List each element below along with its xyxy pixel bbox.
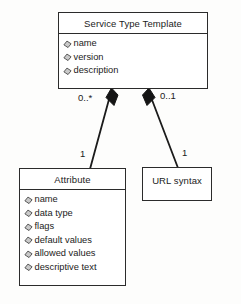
multiplicity-label-url-syntax-end: 1: [182, 148, 187, 158]
diamond-bullet-icon: [24, 250, 33, 259]
composition-line-template-attribute: [90, 92, 111, 169]
attribute-row: version: [59, 51, 207, 65]
diamond-bullet-icon: [24, 236, 33, 245]
attribute-row: descriptive text: [20, 261, 125, 275]
multiplicity-label-template-attribute-end: 0..*: [78, 93, 92, 103]
attribute-label: name: [74, 39, 97, 48]
attribute-row: default values: [20, 234, 125, 248]
attribute-label: data type: [35, 209, 73, 218]
class-title-url-syntax: URL syntax: [143, 168, 211, 191]
attribute-label: default values: [35, 236, 92, 245]
attribute-row: name: [59, 37, 207, 51]
diamond-bullet-icon: [24, 209, 33, 218]
attribute-row: allowed values: [20, 247, 125, 261]
class-attributes-attribute: name data type flags: [20, 190, 125, 277]
diamond-bullet-icon: [63, 53, 72, 62]
diamond-bullet-icon: [63, 67, 72, 76]
class-title-attribute: Attribute: [20, 169, 125, 190]
diamond-bullet-icon: [24, 263, 33, 272]
composition-line-template-url-syntax: [149, 92, 178, 168]
attribute-row: flags: [20, 220, 125, 234]
class-title-service-type-template: Service Type Template: [59, 13, 207, 34]
diamond-bullet-icon: [24, 196, 33, 205]
attribute-row: name: [20, 193, 125, 207]
class-box-attribute[interactable]: Attribute name data type: [19, 168, 126, 286]
diamond-bullet-icon: [63, 40, 72, 49]
class-box-url-syntax[interactable]: URL syntax: [142, 167, 212, 201]
attribute-label: allowed values: [35, 249, 96, 258]
attribute-label: flags: [35, 222, 55, 231]
class-attributes-service-type-template: name version description: [59, 34, 207, 81]
diamond-bullet-icon: [24, 223, 33, 232]
attribute-label: version: [74, 53, 104, 62]
attribute-row: description: [59, 64, 207, 78]
attribute-label: description: [74, 66, 119, 75]
class-box-service-type-template[interactable]: Service Type Template name version: [58, 12, 208, 89]
multiplicity-label-attribute-end: 1: [80, 149, 85, 159]
attribute-label: descriptive text: [35, 263, 97, 272]
multiplicity-label-template-url-end: 0..1: [160, 91, 176, 101]
attribute-label: name: [35, 195, 58, 204]
attribute-row: data type: [20, 207, 125, 221]
